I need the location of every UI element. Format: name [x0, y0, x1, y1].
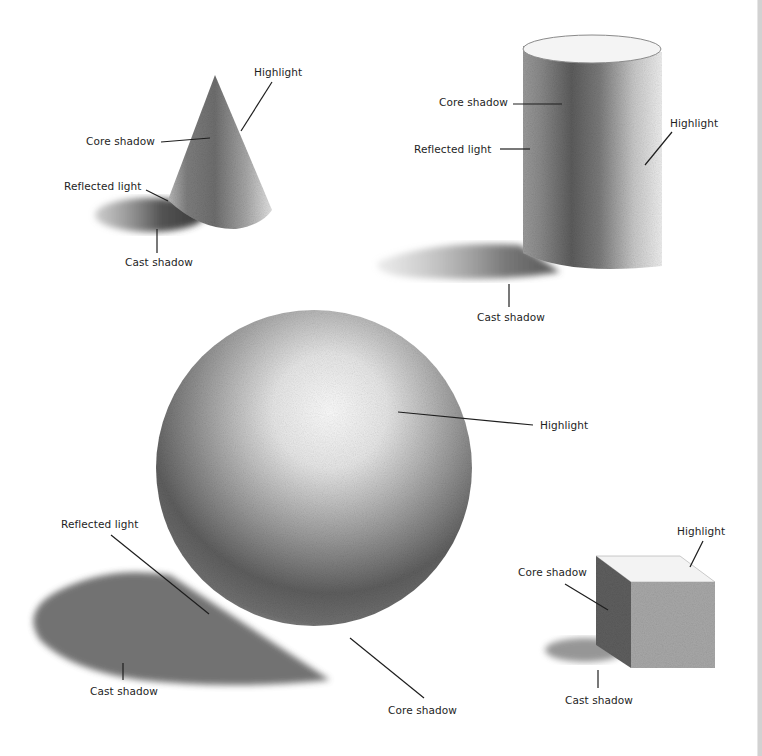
- cube-core-shadow-label: Core shadow: [518, 566, 587, 578]
- sphere-drawing: [33, 310, 472, 685]
- cone-drawing: [95, 75, 272, 232]
- sphere-core-shadow-leader: [350, 638, 424, 698]
- cone-highlight-leader: [241, 82, 272, 131]
- cube-highlight-leader: [690, 541, 703, 567]
- cylinder-highlight-label: Highlight: [670, 117, 718, 129]
- sphere-cast-shadow-label: Cast shadow: [90, 685, 158, 697]
- cone-reflected-light-label: Reflected light: [64, 180, 141, 192]
- page-edge-strip: [757, 0, 762, 756]
- cube-front-face: [631, 582, 715, 668]
- cylinder-cast-shadow-label: Cast shadow: [477, 311, 545, 323]
- sphere-core-shadow-label: Core shadow: [388, 704, 457, 716]
- cone-cast-shadow-label: Cast shadow: [125, 256, 193, 268]
- cube-highlight-label: Highlight: [677, 525, 725, 537]
- shading-illustration: [0, 0, 757, 756]
- cylinder-reflected-light-label: Reflected light: [414, 143, 491, 155]
- cylinder-top: [523, 35, 661, 63]
- cone-core-shadow-label: Core shadow: [86, 135, 155, 147]
- cone-body: [168, 75, 272, 229]
- cylinder-core-shadow-label: Core shadow: [439, 96, 508, 108]
- cylinder-drawing: [377, 35, 662, 279]
- figure-canvas: Highlight Core shadow Reflected light Ca…: [0, 0, 757, 756]
- cylinder-body: [523, 46, 662, 269]
- cone-highlight-label: Highlight: [254, 66, 302, 78]
- sphere-body: [156, 310, 472, 626]
- sphere-reflected-light-label: Reflected light: [61, 518, 138, 530]
- sphere-highlight-label: Highlight: [540, 419, 588, 431]
- cube-cast-shadow-label: Cast shadow: [565, 694, 633, 706]
